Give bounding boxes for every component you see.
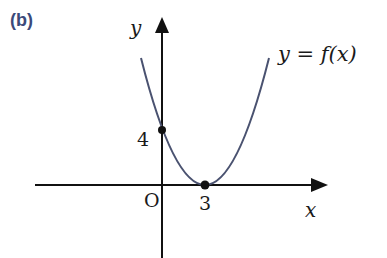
y-axis-arrow-icon	[155, 17, 169, 33]
x-axis-label: x	[305, 198, 316, 222]
y-intercept-label: 4	[137, 128, 149, 150]
graph-figure: (b) y x y = f(x) 4 O 3	[0, 0, 387, 258]
graph-canvas	[0, 0, 387, 258]
curve-label: y = f(x)	[278, 42, 357, 66]
parabola-curve	[141, 58, 269, 185]
y-intercept-point	[158, 126, 166, 134]
y-axis-label: y	[130, 16, 141, 40]
vertex-point	[201, 181, 210, 190]
x-root-label: 3	[199, 192, 211, 214]
x-axis-arrow-icon	[311, 178, 328, 192]
origin-label: O	[144, 189, 160, 211]
